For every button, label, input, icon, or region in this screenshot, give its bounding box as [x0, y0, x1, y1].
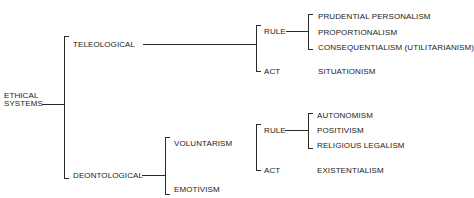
main-bracket-vertical: [64, 36, 65, 179]
teleological-label: TELEOLOGICAL: [73, 40, 135, 49]
emotivism-label: EMOTIVISM: [174, 185, 220, 194]
teleological-rule-act-bracket: [256, 25, 257, 72]
deontological-rule-connector: [285, 130, 308, 131]
deontological-bracket-top-tick: [165, 137, 170, 138]
teleological-rule-items-bottom-tick: [308, 49, 313, 50]
deontological-rule-items-top-tick: [308, 113, 313, 114]
ethical-systems-tree-diagram: ETHICAL SYSTEMS TELEOLOGICAL RULE ACT PR…: [0, 0, 474, 198]
root-label-line2: SYSTEMS: [4, 99, 43, 108]
consequentialism-label: CONSEQUENTIALISM (UTILITARIANISM): [318, 43, 474, 52]
teleological-rule-connector: [286, 31, 308, 32]
prudential-personalism-label: PRUDENTIAL PERSONALISM: [318, 12, 431, 21]
deontological-label: DEONTOLOGICAL: [73, 171, 143, 180]
teleological-rule-label: RULE: [264, 27, 286, 36]
deontological-connector: [142, 175, 165, 176]
autonomism-label: AUTONOMISM: [317, 111, 373, 120]
deontological-bracket-bottom-tick: [165, 194, 170, 195]
deontological-rule-label: RULE: [264, 126, 286, 135]
deontological-rule-items-bracket: [308, 113, 309, 149]
situationism-label: SITUATIONISM: [318, 67, 376, 76]
deontological-rule-act-bracket: [256, 124, 257, 171]
voluntarism-label: VOLUNTARISM: [174, 139, 232, 148]
deontological-rule-items-bottom-tick: [308, 148, 313, 149]
deontological-bracket: [165, 137, 166, 195]
teleological-bracket-bottom-tick: [256, 71, 261, 72]
teleological-act-label: ACT: [264, 67, 280, 76]
teleological-rule-items-top-tick: [308, 14, 313, 15]
main-bracket-bottom-tick: [64, 178, 69, 179]
main-bracket-top-tick: [64, 36, 69, 37]
existentialism-label: EXISTENTIALISM: [317, 166, 384, 175]
teleological-bracket-top-tick: [256, 25, 261, 26]
deontological-bracket2-bottom-tick: [256, 170, 261, 171]
teleological-connector: [143, 44, 256, 45]
deontological-bracket2-top-tick: [256, 124, 261, 125]
teleological-rule-items-bracket: [308, 14, 309, 50]
proportionalism-label: PROPORTIONALISM: [318, 28, 397, 37]
positivism-label: POSITIVISM: [317, 126, 364, 135]
religious-legalism-label: RELIGIOUS LEGALISM: [317, 141, 405, 150]
deontological-act-label: ACT: [264, 166, 280, 175]
root-connector: [42, 104, 64, 105]
